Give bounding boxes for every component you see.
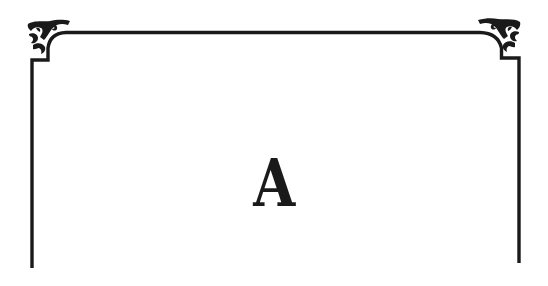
corner-flourish-right-icon (478, 18, 520, 52)
card-letter: A (50, 150, 499, 216)
ornamental-frame (0, 0, 548, 286)
